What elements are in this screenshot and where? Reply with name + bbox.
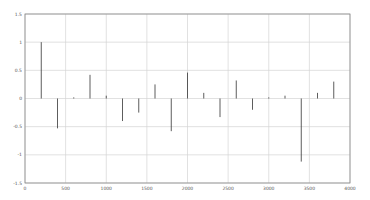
x-tick-label: 2000: [182, 186, 194, 191]
y-tick-label: -1.5: [13, 181, 22, 186]
y-tick-label: -0.5: [13, 124, 22, 129]
stem-chart: 1.510.50-0.5-1-1.5 050010001500200025003…: [0, 0, 370, 200]
x-tick-label: 4000: [344, 186, 356, 191]
x-tick-label: 0: [24, 186, 27, 191]
y-tick-label: 1: [19, 40, 22, 45]
y-tick-label: 0.5: [15, 68, 22, 73]
y-axis-tick-labels: 1.510.50-0.5-1-1.5: [13, 12, 22, 186]
x-tick-label: 1000: [101, 186, 113, 191]
x-tick-label: 3500: [304, 186, 316, 191]
y-tick-label: 1.5: [15, 12, 22, 17]
x-tick-label: 3000: [263, 186, 275, 191]
y-tick-label: 0: [19, 96, 22, 101]
x-axis-tick-labels: 05001000150020002500300035004000: [24, 186, 356, 191]
y-tick-label: -1: [18, 152, 23, 157]
x-tick-label: 1500: [141, 186, 153, 191]
x-tick-label: 2500: [222, 186, 234, 191]
x-tick-label: 500: [61, 186, 70, 191]
